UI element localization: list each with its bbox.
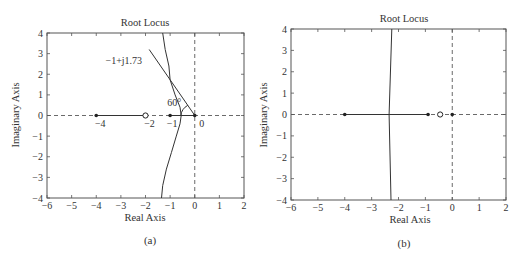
x-tick-label-a: 0 [192,200,197,211]
annotation-a: −2 [144,118,155,129]
x-tick-label-a: −1 [165,200,176,211]
y-tick-label-a: −3 [32,172,43,183]
y-tick-label-b: −1 [276,130,287,141]
panel-b: Root Locus Real Axis Imaginary Axis (b) … [258,13,509,250]
plot-title-a: Root Locus [121,17,170,28]
y-tick-label-b: −3 [276,173,287,184]
x-tick-label-a: −3 [116,200,127,211]
x-tick-label-b: 0 [450,202,455,213]
y-tick-label-a: 1 [38,89,43,100]
y-tick-label-b: −4 [276,195,287,206]
pole-marker-b [426,113,430,117]
x-axis-label-a: Real Axis [124,212,165,223]
angle-arc-60deg [181,105,188,115]
x-tick-label-b: −6 [286,202,297,213]
root-locus-figure: Root Locus Real Axis Imaginary Axis (a) … [0,0,527,265]
y-axis-label-a: Imaginary Axis [10,82,21,147]
x-tick-label-a: −2 [140,200,151,211]
annotation-a: −1+j1.73 [106,55,143,66]
x-tick-label-a: 1 [217,200,222,211]
annotation-a: 60° [167,97,181,108]
pole-marker-a [193,114,197,118]
x-tick-label-a: −5 [66,200,77,211]
y-axis-label-b: Imaginary Axis [258,82,269,147]
x-tick-label-b: 2 [504,202,509,213]
y-tick-label-a: −4 [32,193,43,204]
caption-b: (b) [398,237,411,250]
x-tick-label-b: −3 [366,202,377,213]
y-tick-label-b: −2 [276,152,287,163]
x-tick-label-a: −4 [91,200,102,211]
caption-a: (a) [144,234,157,247]
pole-marker-b [450,113,454,117]
panel-a: Root Locus Real Axis Imaginary Axis (a) … [10,17,247,247]
x-tick-label-a: −6 [42,200,53,211]
annotation-a: −4 [95,118,106,129]
y-tick-label-a: −1 [32,131,43,142]
annotation-a: 0 [199,118,204,129]
plot-title-b: Root Locus [380,13,429,24]
x-tick-label-b: −1 [420,202,431,213]
pole-marker-b [343,113,347,117]
x-tick-label-b: −4 [339,202,350,213]
y-tick-label-a: −2 [32,151,43,162]
y-tick-label-b: 1 [282,88,287,99]
y-tick-label-b: 0 [282,109,287,120]
y-tick-label-b: 4 [282,24,287,35]
zero-marker-b [438,112,443,117]
x-tick-label-b: −5 [313,202,324,213]
y-tick-label-a: 3 [38,48,43,59]
y-tick-label-b: 3 [282,45,287,56]
x-axis-label-b: Real Axis [389,214,430,225]
x-tick-label-a: 2 [242,200,247,211]
x-tick-label-b: 1 [477,202,482,213]
y-tick-label-b: 2 [282,66,287,77]
annotation-a: −1 [167,118,178,129]
y-tick-label-a: 2 [38,69,43,80]
y-tick-label-a: 0 [38,110,43,121]
x-tick-label-b: −2 [393,202,404,213]
y-tick-label-a: 4 [38,28,43,39]
